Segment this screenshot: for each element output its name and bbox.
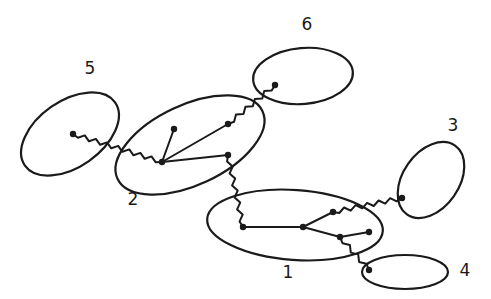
node-n6a [272,82,278,88]
node-n4a [366,267,372,273]
cluster-2-label: 2 [128,191,139,208]
cluster-diagram: 123456 [0,0,491,299]
cluster-ellipses [6,44,478,289]
edge-n1b-n3a [333,198,402,213]
edge-n1hub-n1b [303,212,333,227]
cluster-1-label: 1 [283,264,294,281]
edge-n2b-n6a [228,85,275,124]
cluster-4-label: 4 [460,262,471,279]
node-n1d [366,229,372,235]
cluster-6-ellipse [251,44,356,109]
tree-edges [73,85,402,270]
node-n1b [330,209,336,215]
node-n2hub [159,159,165,165]
cluster-5-label: 5 [85,60,96,77]
node-n5a [70,131,76,137]
edge-n1c-n1d [340,232,369,237]
node-n1hub [300,224,306,230]
node-n2b [225,121,231,127]
node-n2c [225,152,231,158]
edge-n1hub-n1c [303,227,340,237]
diagram-canvas [0,0,491,299]
cluster-3-ellipse [384,130,478,231]
node-n3a [399,195,405,201]
cluster-6-label: 6 [302,16,313,33]
tree-nodes [70,82,405,273]
node-n1c [337,234,343,240]
node-n1a [240,224,246,230]
node-n2a [171,126,177,132]
cluster-3-label: 3 [448,117,459,134]
cluster-4-ellipse [362,255,448,289]
